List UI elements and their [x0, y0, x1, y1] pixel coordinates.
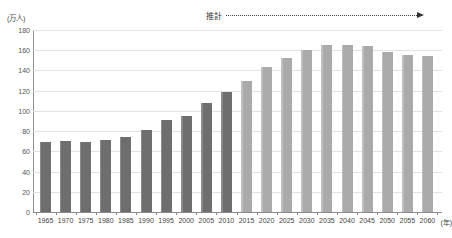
bar-2050: [382, 52, 393, 212]
x-axis-tick-label: 2055: [400, 217, 416, 224]
y-axis-tick-label: 100: [18, 107, 30, 114]
x-axis-tick-label: 2015: [239, 217, 255, 224]
x-axis-tick-label: 2045: [359, 217, 375, 224]
bar-2010: [221, 92, 232, 212]
x-axis-tick: [397, 212, 398, 215]
bar-1985: [120, 137, 131, 212]
x-axis-tick-label: 2040: [339, 217, 355, 224]
x-axis-tick: [176, 212, 177, 215]
bar-1975: [80, 142, 91, 212]
x-axis-tick-label: 1970: [58, 217, 74, 224]
x-axis-tick: [417, 212, 418, 215]
bar-2060: [422, 56, 433, 212]
bar-2055: [402, 55, 413, 212]
x-axis-tick: [257, 212, 258, 215]
bar-2035: [321, 45, 332, 212]
x-axis-tick-label: 2000: [178, 217, 194, 224]
y-axis-tick-label: 20: [22, 188, 30, 195]
bar-1990: [141, 130, 152, 212]
x-axis-tick-label: 2020: [259, 217, 275, 224]
x-axis-tick-label: 1975: [78, 217, 94, 224]
x-axis-tick: [96, 212, 97, 215]
x-axis-tick-label: 2005: [199, 217, 215, 224]
bar-2005: [201, 103, 212, 212]
bar-2015: [241, 81, 252, 212]
y-axis-tick-label: 60: [22, 148, 30, 155]
x-axis-tick: [196, 212, 197, 215]
bar-2025: [281, 58, 292, 212]
x-axis-tick: [297, 212, 298, 215]
x-axis-tick: [156, 212, 157, 215]
x-axis-unit-label: (年): [440, 217, 452, 227]
x-axis-tick: [56, 212, 57, 215]
bar-2030: [301, 50, 312, 212]
estimate-arrow-icon: [226, 12, 424, 19]
x-axis-tick: [116, 212, 117, 215]
estimate-annotation-label: 推計: [206, 10, 222, 21]
estimate-annotation: 推計: [206, 9, 424, 21]
x-axis-tick-label: 2030: [299, 217, 315, 224]
y-axis-tick-label: 80: [22, 128, 30, 135]
bar-1970: [60, 141, 71, 212]
bar-1995: [161, 120, 172, 212]
bar-2045: [362, 46, 373, 212]
x-axis-tick-label: 1995: [158, 217, 174, 224]
x-axis-tick: [216, 212, 217, 215]
x-axis-tick-label: 2060: [420, 217, 436, 224]
x-axis-tick: [357, 212, 358, 215]
x-axis-tick: [437, 212, 438, 215]
x-axis-tick: [237, 212, 238, 215]
x-axis-tick: [36, 212, 37, 215]
bar-2020: [261, 67, 272, 212]
x-axis-tick: [76, 212, 77, 215]
bar-1980: [100, 140, 111, 212]
y-axis-tick-label: 140: [18, 67, 30, 74]
bar-series: [33, 30, 442, 212]
x-axis-tick-label: 2010: [219, 217, 235, 224]
y-axis-tick-label: 0: [26, 209, 30, 216]
bar-2040: [342, 45, 353, 212]
x-axis-tick: [277, 212, 278, 215]
x-axis-tick-label: 2035: [319, 217, 335, 224]
y-axis-tick-label: 180: [18, 27, 30, 34]
x-axis-tick-label: 1965: [38, 217, 54, 224]
x-axis-tick: [317, 212, 318, 215]
bar-2000: [181, 116, 192, 212]
bar-1965: [40, 142, 51, 212]
x-axis-tick-label: 1985: [118, 217, 134, 224]
x-axis-baseline: 0: [33, 212, 442, 213]
y-axis-unit-label: (万人): [7, 12, 25, 23]
x-axis-tick-label: 2050: [379, 217, 395, 224]
x-axis-tick-label: 1990: [138, 217, 154, 224]
x-axis-tick: [377, 212, 378, 215]
y-axis-tick-label: 120: [18, 87, 30, 94]
y-axis-tick-label: 160: [18, 47, 30, 54]
plot-area: 180160140120100806040200: [33, 30, 442, 212]
x-axis-tick: [337, 212, 338, 215]
x-axis-tick-label: 1980: [98, 217, 114, 224]
y-axis-tick-label: 40: [22, 168, 30, 175]
x-axis-tick: [136, 212, 137, 215]
x-axis-tick-label: 2025: [279, 217, 295, 224]
